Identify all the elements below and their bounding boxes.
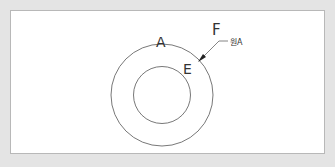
inner-circle [134,67,191,124]
label-f: F [212,21,221,39]
outer-circle [111,44,213,146]
callout-text: 원A [230,38,243,47]
label-a: A [156,34,166,50]
label-e: E [183,61,192,77]
circle-diagram: A E F 원A [0,0,335,167]
